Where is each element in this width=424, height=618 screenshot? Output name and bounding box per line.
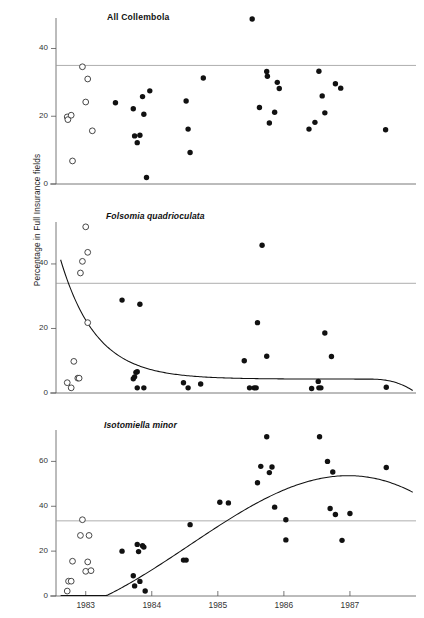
data-point-filled <box>333 512 338 517</box>
data-point-open <box>88 568 94 574</box>
data-point-open <box>80 258 86 264</box>
data-point-filled <box>267 470 272 475</box>
data-point-filled <box>113 100 118 105</box>
data-point-filled <box>131 106 136 111</box>
data-point-filled <box>144 175 149 180</box>
data-point-filled <box>384 384 389 389</box>
data-point-open <box>86 533 92 539</box>
data-point-filled <box>316 68 321 73</box>
plot-canvas <box>0 0 424 618</box>
data-point-filled <box>217 500 222 505</box>
y-tick-label: 20 <box>16 546 48 555</box>
data-point-filled <box>333 81 338 86</box>
data-point-filled <box>198 381 203 386</box>
data-point-filled <box>330 469 335 474</box>
data-point-filled <box>322 330 327 335</box>
data-point-open <box>78 270 84 276</box>
data-point-filled <box>119 548 124 553</box>
data-point-filled <box>141 385 146 390</box>
data-point-filled <box>137 302 142 307</box>
data-point-filled <box>329 354 334 359</box>
data-point-filled <box>257 105 262 110</box>
data-point-filled <box>226 500 231 505</box>
data-point-filled <box>269 464 274 469</box>
data-point-filled <box>338 85 343 90</box>
data-point-filled <box>325 459 330 464</box>
data-point-open <box>80 517 86 523</box>
data-point-filled <box>187 150 192 155</box>
data-point-filled <box>183 557 188 562</box>
data-point-filled <box>327 506 332 511</box>
data-point-filled <box>142 588 147 593</box>
data-point-open <box>71 358 77 364</box>
data-point-open <box>78 533 84 539</box>
data-point-open <box>68 578 74 584</box>
data-point-filled <box>283 517 288 522</box>
data-point-filled <box>136 549 141 554</box>
data-point-open <box>64 380 70 386</box>
data-point-open <box>64 588 70 594</box>
data-point-filled <box>309 386 314 391</box>
y-tick-label: 60 <box>16 456 48 465</box>
x-tick-label: 1986 <box>264 600 304 610</box>
data-point-filled <box>131 573 136 578</box>
data-point-open <box>83 224 89 230</box>
data-point-filled <box>320 93 325 98</box>
data-point-filled <box>277 86 282 91</box>
data-point-filled <box>141 544 146 549</box>
x-tick-label: 1984 <box>132 600 172 610</box>
data-point-open <box>68 385 74 391</box>
data-point-filled <box>255 480 260 485</box>
data-point-open <box>85 320 91 326</box>
data-point-filled <box>135 542 140 547</box>
data-point-filled <box>132 583 137 588</box>
data-point-filled <box>264 434 269 439</box>
data-point-filled <box>259 243 264 248</box>
data-point-open <box>85 76 91 82</box>
x-tick-label: 1987 <box>330 600 370 610</box>
y-tick-label: 40 <box>16 501 48 510</box>
data-point-filled <box>137 579 142 584</box>
data-point-filled <box>247 385 252 390</box>
data-point-filled <box>258 464 263 469</box>
data-point-filled <box>187 522 192 527</box>
data-point-filled <box>316 379 321 384</box>
data-point-open <box>89 128 95 134</box>
data-point-open <box>83 99 89 105</box>
data-point-filled <box>119 297 124 302</box>
collembola-figure: Percentage in Full Insurance fields All … <box>0 0 424 618</box>
data-point-filled <box>383 127 388 132</box>
data-point-filled <box>264 354 269 359</box>
data-point-filled <box>255 320 260 325</box>
y-tick-label: 20 <box>16 111 48 120</box>
y-tick-label: 0 <box>16 388 48 397</box>
data-point-filled <box>318 385 323 390</box>
data-point-filled <box>242 358 247 363</box>
y-tick-label: 20 <box>16 323 48 332</box>
data-point-open <box>80 64 86 70</box>
data-point-open <box>70 558 76 564</box>
data-point-filled <box>275 80 280 85</box>
data-point-filled <box>283 537 288 542</box>
data-point-filled <box>339 538 344 543</box>
data-point-filled <box>265 74 270 79</box>
data-point-open <box>76 375 82 381</box>
data-point-filled <box>317 434 322 439</box>
y-tick-label: 40 <box>16 43 48 52</box>
data-point-filled <box>267 120 272 125</box>
data-point-filled <box>185 126 190 131</box>
y-tick-label: 40 <box>16 258 48 267</box>
data-point-filled <box>141 112 146 117</box>
data-point-filled <box>347 511 352 516</box>
data-point-filled <box>272 109 277 114</box>
y-tick-label: 0 <box>16 591 48 600</box>
data-point-filled <box>185 385 190 390</box>
data-point-filled <box>312 120 317 125</box>
data-point-filled <box>384 465 389 470</box>
data-point-filled <box>322 110 327 115</box>
x-tick-label: 1983 <box>66 600 106 610</box>
data-point-filled <box>135 369 140 374</box>
x-tick-label: 1985 <box>198 600 238 610</box>
data-point-open <box>70 158 76 164</box>
data-point-filled <box>132 133 137 138</box>
